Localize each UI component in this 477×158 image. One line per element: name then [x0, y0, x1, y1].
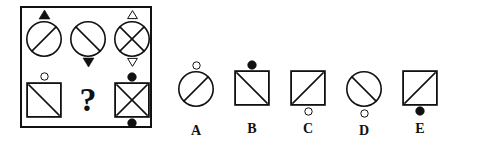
marker-below-triangle-down-filled-icon: [83, 58, 94, 68]
circle-with-diagonal-up-icon: [177, 70, 215, 108]
answer-option-b[interactable]: B: [224, 60, 280, 136]
matrix-cell-5-question: ?: [66, 69, 110, 130]
marker-above-triangle-up-hollow-icon: [127, 10, 138, 20]
answer-option-label-b: B: [247, 122, 256, 136]
marker-below-circle-hollow-icon: [360, 108, 369, 118]
answer-option-d[interactable]: D: [336, 60, 392, 138]
marker-above-triangle-up-filled-icon: [39, 10, 50, 20]
glyph-stack: [234, 60, 270, 116]
answer-option-a[interactable]: A: [168, 60, 224, 138]
square-with-diagonal-up-icon: [402, 70, 438, 106]
answer-option-label-e: E: [415, 122, 424, 136]
glyph-stack: [113, 10, 151, 68]
glyph-stack: [402, 60, 438, 116]
matrix-cell-2: [66, 8, 110, 69]
answer-option-label-d: D: [359, 124, 369, 138]
circle-with-diagonal-down-icon: [69, 20, 107, 58]
glyph-stack: [25, 10, 63, 68]
answer-option-label-a: A: [191, 124, 201, 138]
matrix-cell-1: [22, 8, 66, 69]
marker-above-circle-filled-icon: [127, 72, 137, 82]
matrix-cell-6: [110, 69, 154, 130]
question-mark-label: ?: [80, 83, 97, 117]
answer-option-e[interactable]: E: [392, 60, 448, 136]
matrix-grid: ?: [22, 8, 150, 126]
marker-above-circle-hollow-icon: [192, 60, 201, 70]
puzzle-root: ?: [0, 0, 477, 158]
square-with-diagonal-down-icon: [26, 82, 62, 118]
marker-below-triangle-down-hollow-icon: [127, 58, 138, 68]
glyph-stack: [177, 60, 215, 118]
answer-option-c[interactable]: C: [280, 60, 336, 136]
marker-below-circle-filled-icon: [127, 118, 137, 128]
matrix-cell-4: [22, 69, 66, 130]
square-with-diagonal-up-icon: [290, 70, 326, 106]
marker-below-circle-filled-icon: [415, 106, 425, 116]
marker-above-circle-hollow-icon: [40, 72, 49, 82]
answer-option-label-c: C: [303, 122, 313, 136]
glyph-stack: [345, 60, 383, 118]
glyph-stack: [69, 10, 107, 68]
marker-below-circle-hollow-icon: [304, 106, 313, 116]
marker-above-circle-filled-icon: [247, 60, 257, 70]
circle-with-cross-x-icon: [113, 20, 151, 58]
matrix-panel: ?: [20, 6, 152, 128]
circle-with-diagonal-down-icon: [345, 70, 383, 108]
square-with-cross-x-icon: [114, 82, 150, 118]
square-with-diagonal-down-icon: [234, 70, 270, 106]
glyph-stack: [26, 72, 62, 128]
matrix-cell-3: [110, 8, 154, 69]
glyph-stack: [114, 72, 150, 128]
circle-with-diagonal-up-icon: [25, 20, 63, 58]
glyph-stack: [290, 60, 326, 116]
